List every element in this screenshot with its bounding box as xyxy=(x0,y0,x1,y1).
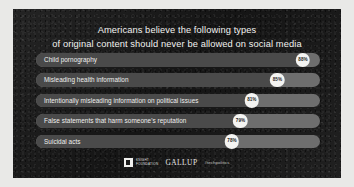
bar-value-badge: 88% xyxy=(296,53,311,68)
bar-value-badge: 79% xyxy=(233,114,248,129)
bar-value-badge: 78% xyxy=(225,134,240,149)
bar-value-badge: 81% xyxy=(245,93,260,108)
infographic-frame: Americans believe the following types of… xyxy=(0,0,354,187)
bar-row: Intentionally misleading information on … xyxy=(36,94,320,108)
campaign-hashtag: #techpolitics xyxy=(205,160,230,165)
bar-row: Suicidal acts78% xyxy=(36,135,320,149)
headline-line-1: Americans believe the following types xyxy=(13,23,341,37)
infographic-panel: Americans believe the following types of… xyxy=(13,9,341,178)
bar-row: Misleading health information85% xyxy=(36,73,320,87)
headline-line-2: of original content should never be allo… xyxy=(13,37,341,51)
knight-logo-line-2: FOUNDATION xyxy=(136,163,158,167)
bar-label: Suicidal acts xyxy=(44,135,81,149)
bar-label: Child pornography xyxy=(44,53,97,67)
knight-logo-text: KNIGHT FOUNDATION xyxy=(136,159,158,166)
knight-foundation-logo: KNIGHT FOUNDATION xyxy=(124,158,158,167)
bar-label: Misleading health information xyxy=(44,73,129,87)
knight-logo-mark-icon xyxy=(124,158,133,167)
bar-chart: Child pornography88%Misleading health in… xyxy=(36,53,320,155)
bar-label: False statements that harm someone's rep… xyxy=(44,114,186,128)
bar-value-badge: 85% xyxy=(270,73,285,88)
page-title: Americans believe the following types of… xyxy=(13,23,341,51)
gallup-logo: GALLUP xyxy=(165,158,197,167)
bar-label: Intentionally misleading information on … xyxy=(44,94,198,108)
bar-row: Child pornography88% xyxy=(36,53,320,67)
footer: KNIGHT FOUNDATION GALLUP #techpolitics xyxy=(13,158,341,167)
bar-row: False statements that harm someone's rep… xyxy=(36,114,320,128)
